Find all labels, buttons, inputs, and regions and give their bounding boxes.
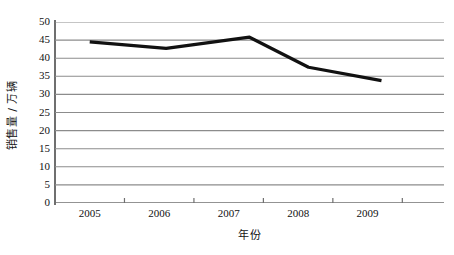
y-axis-tick-label: 40 (20, 52, 50, 63)
y-axis-tick-label: 25 (20, 107, 50, 118)
y-axis-tick-label: 30 (20, 88, 50, 99)
y-axis-tick-labels: 05101520253035404550 (14, 0, 50, 255)
y-axis-tick-label: 20 (20, 125, 50, 136)
chart-figure: 销售量 / 万辆 05101520253035404550 2005200620… (0, 0, 454, 255)
x-axis-tick-label: 2009 (338, 207, 398, 220)
y-axis-tick-label: 0 (20, 197, 50, 208)
y-axis-tick-label: 45 (20, 34, 50, 45)
data-series-line (90, 37, 382, 80)
x-axis-tick-labels: 20052006200720082009 (55, 207, 444, 223)
gridlines (55, 22, 444, 203)
y-axis-tick-label: 10 (20, 161, 50, 172)
y-axis-tick-label: 35 (20, 70, 50, 81)
x-axis-tick-label: 2007 (199, 207, 259, 220)
y-axis-tick-label: 15 (20, 143, 50, 154)
x-axis-tick-label: 2005 (60, 207, 120, 220)
x-axis-tick-label: 2008 (268, 207, 328, 220)
y-axis-tick-label: 5 (20, 179, 50, 190)
x-axis-tick-label: 2006 (129, 207, 189, 220)
plot-svg (55, 22, 444, 203)
plot-area (55, 22, 444, 203)
y-axis-tick-label: 50 (20, 16, 50, 27)
x-axis-title: 年份 (55, 226, 444, 242)
